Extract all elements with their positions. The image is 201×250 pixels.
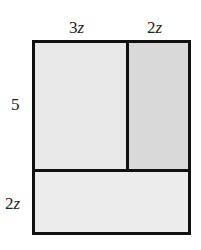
region-bottom xyxy=(35,172,188,232)
label-height-bottom: 2z xyxy=(5,195,20,212)
label-coefficient: 3 xyxy=(69,18,78,37)
label-height-top: 5 xyxy=(11,96,20,113)
region-top-right xyxy=(129,43,188,169)
label-variable: z xyxy=(156,18,163,37)
label-coefficient: 2 xyxy=(5,194,14,213)
label-coefficient: 5 xyxy=(11,95,20,114)
label-variable: z xyxy=(14,194,21,213)
label-width-right: 2z xyxy=(147,19,162,36)
label-coefficient: 2 xyxy=(147,18,156,37)
region-top-left xyxy=(35,43,126,169)
label-variable: z xyxy=(78,18,85,37)
label-width-left: 3z xyxy=(69,19,84,36)
horizontal-divider xyxy=(33,169,190,172)
area-model-diagram: 3z 2z 5 2z xyxy=(0,0,201,250)
vertical-divider xyxy=(126,41,129,172)
